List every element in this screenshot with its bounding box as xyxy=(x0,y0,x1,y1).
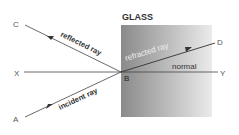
reflected-ray xyxy=(25,25,121,72)
reflected-ray-label: reflected ray xyxy=(59,30,104,58)
normal-label: normal xyxy=(172,62,197,71)
point-b: B xyxy=(124,74,129,83)
refraction-diagram: GLASS C A X Y D B reflected ray incident… xyxy=(0,0,239,135)
point-a: A xyxy=(13,115,19,124)
point-y: Y xyxy=(220,69,226,78)
point-d: D xyxy=(217,38,223,47)
point-x: X xyxy=(14,69,20,78)
incident-ray xyxy=(25,72,121,117)
reflected-arrow-icon xyxy=(47,36,54,40)
glass-label: GLASS xyxy=(122,12,153,22)
glass-block xyxy=(121,25,212,117)
point-c: C xyxy=(13,20,19,29)
